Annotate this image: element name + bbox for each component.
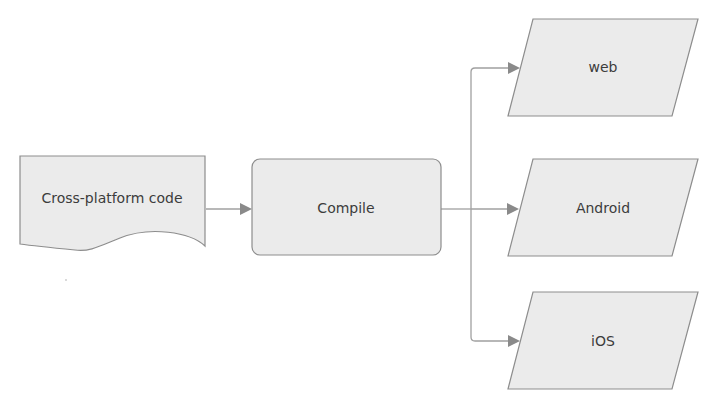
node-compile[interactable]: Compile <box>252 159 441 255</box>
node-ios[interactable]: iOS <box>508 292 698 389</box>
edge-compile-to-ios <box>471 209 508 341</box>
node-label: Android <box>576 200 630 216</box>
node-label: iOS <box>591 333 615 349</box>
node-label: Cross-platform code <box>41 190 182 206</box>
arrowhead-icon <box>240 203 252 215</box>
arrowhead-icon <box>508 335 520 347</box>
node-android[interactable]: Android <box>508 159 698 256</box>
flowchart-diagram: Cross-platform code Compile web Android … <box>0 0 712 406</box>
arrowhead-icon <box>508 62 520 74</box>
node-label: Compile <box>317 200 374 216</box>
edge-compile-to-web <box>471 68 508 209</box>
node-cross-platform-code[interactable]: Cross-platform code <box>20 156 205 250</box>
node-web[interactable]: web <box>508 19 698 116</box>
arrowhead-icon <box>507 203 519 215</box>
speck-dot <box>65 279 67 281</box>
node-label: web <box>589 59 618 75</box>
